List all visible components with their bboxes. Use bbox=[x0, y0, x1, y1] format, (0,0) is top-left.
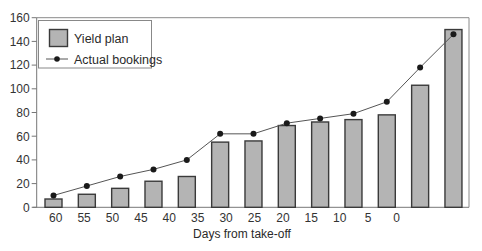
y-axis: 020406080100120140160 bbox=[10, 11, 37, 215]
actual-bookings-marker bbox=[417, 64, 423, 70]
bar-yield-plan bbox=[212, 142, 229, 207]
actual-bookings-marker bbox=[384, 99, 390, 105]
y-tick-label: 100 bbox=[10, 82, 30, 96]
actual-bookings-marker bbox=[150, 166, 156, 172]
x-tick-label: 25 bbox=[248, 211, 262, 225]
bar-yield-plan bbox=[345, 120, 362, 208]
bar-yield-plan bbox=[278, 126, 295, 208]
actual-bookings-marker bbox=[284, 120, 290, 126]
y-tick-label: 160 bbox=[10, 11, 30, 25]
actual-bookings-marker bbox=[317, 115, 323, 121]
bookings-chart: 020406080100120140160 605550454035302520… bbox=[0, 0, 482, 251]
actual-bookings-marker bbox=[117, 173, 123, 179]
y-tick-label: 140 bbox=[10, 35, 30, 49]
y-tick-label: 40 bbox=[16, 153, 30, 167]
y-tick-label: 60 bbox=[16, 130, 30, 144]
x-tick-label: 10 bbox=[333, 211, 347, 225]
legend-marker-actual-bookings bbox=[54, 56, 60, 62]
actual-bookings-marker bbox=[217, 131, 223, 137]
legend-label-actual-bookings: Actual bookings bbox=[74, 53, 162, 67]
actual-bookings-marker bbox=[450, 31, 456, 37]
x-tick-label: 40 bbox=[163, 211, 177, 225]
actual-bookings-marker bbox=[51, 192, 57, 198]
x-tick-label: 30 bbox=[219, 211, 233, 225]
bar-yield-plan bbox=[245, 141, 262, 207]
y-tick-label: 120 bbox=[10, 58, 30, 72]
legend: Yield plan Actual bookings bbox=[39, 21, 163, 69]
actual-bookings-marker bbox=[184, 157, 190, 163]
bar-yield-plan bbox=[445, 30, 462, 208]
x-axis: 605550454035302520151050 bbox=[49, 211, 400, 225]
legend-swatch-yield-plan bbox=[50, 30, 68, 47]
y-tick-label: 20 bbox=[16, 177, 30, 191]
x-tick-label: 50 bbox=[106, 211, 120, 225]
y-tick-label: 80 bbox=[16, 106, 30, 120]
bar-yield-plan bbox=[412, 85, 429, 207]
actual-bookings-marker bbox=[250, 131, 256, 137]
x-tick-label: 5 bbox=[365, 211, 372, 225]
y-tick-label: 0 bbox=[23, 201, 30, 215]
bar-yield-plan bbox=[145, 181, 162, 207]
bar-yield-plan bbox=[112, 188, 129, 207]
x-tick-label: 20 bbox=[276, 211, 290, 225]
x-tick-label: 45 bbox=[134, 211, 148, 225]
actual-bookings-marker bbox=[84, 183, 90, 189]
bar-yield-plan bbox=[178, 176, 195, 207]
actual-bookings-marker bbox=[350, 111, 356, 117]
x-tick-label: 60 bbox=[49, 211, 63, 225]
legend-label-yield-plan: Yield plan bbox=[74, 32, 128, 46]
x-axis-title: Days from take-off bbox=[193, 227, 291, 241]
bar-yield-plan bbox=[378, 115, 395, 207]
bar-yield-plan bbox=[78, 194, 95, 207]
x-tick-label: 0 bbox=[393, 211, 400, 225]
x-tick-label: 15 bbox=[305, 211, 319, 225]
x-tick-label: 55 bbox=[77, 211, 91, 225]
bar-yield-plan bbox=[312, 122, 329, 207]
x-tick-label: 35 bbox=[191, 211, 205, 225]
bar-yield-plan bbox=[45, 199, 62, 207]
